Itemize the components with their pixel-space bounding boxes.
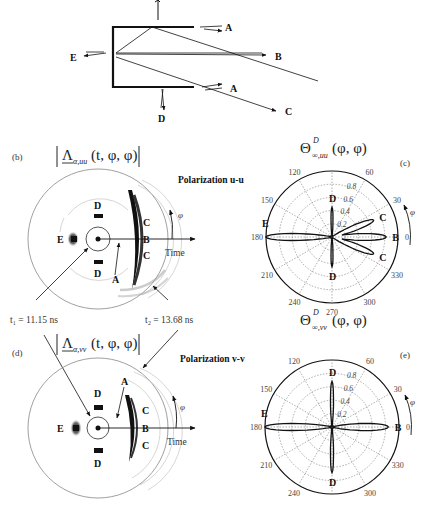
panel-c-formula-args: (φ, φ): [332, 140, 367, 157]
panel-b: (b) Λ α,uu (t, φ, φ) Polarization u-u: [12, 146, 244, 309]
svg-text:330: 330: [392, 461, 404, 470]
polar-lobe-label-e: E: [261, 408, 268, 419]
panel-b-label-a: A: [112, 274, 120, 285]
time-t2: t₂ = 13.68 ns: [145, 315, 194, 325]
polar-lobe-label-d: D: [329, 367, 336, 378]
panel-c-phi: φ: [410, 207, 415, 217]
panel-b-label-d-bottom: D: [94, 268, 101, 279]
panel-d-label-c-top: C: [142, 405, 149, 416]
svg-text:0.8: 0.8: [347, 182, 357, 191]
svg-text:0.2: 0.2: [337, 220, 347, 229]
panel-d-time-label: Time: [167, 437, 187, 447]
panel-d-formula-args: (t, φ, φ): [91, 335, 137, 352]
svg-text:240: 240: [288, 489, 300, 498]
panel-d-label-b: B: [142, 423, 149, 434]
panel-b-label-c-top: C: [143, 217, 150, 228]
svg-text:0.4: 0.4: [340, 207, 350, 216]
svg-text:0: 0: [405, 233, 409, 242]
polar-lobe-label-e: E: [262, 218, 269, 229]
diagram-label-a-top: A: [225, 22, 233, 33]
polar-lobe-label-d: D: [329, 477, 336, 488]
polar-lobe-label-d: D: [329, 271, 336, 282]
panel-d-tag: (d): [12, 348, 23, 358]
panel-e-phi: φ: [410, 397, 415, 407]
diagram-label-d: D: [158, 113, 165, 124]
panel-e-formula-sup: D: [312, 308, 319, 317]
polar-lobe-label-c: C: [379, 252, 386, 263]
panel-d: (d) Λ α,vv (t, φ, φ) Polarization v-v φ …: [12, 334, 245, 498]
diagram-label-a-bottom: A: [230, 83, 238, 94]
panel-d-polarization: Polarization v-v: [180, 354, 245, 364]
svg-text:0: 0: [406, 423, 410, 432]
panel-d-label-c-bottom: C: [142, 440, 149, 451]
panel-b-formula-symbol: Λ: [62, 147, 73, 163]
polar-lobe-label-b: B: [395, 422, 402, 433]
svg-text:330: 330: [391, 271, 403, 280]
panel-b-formula-sub: α,uu: [73, 157, 87, 166]
panel-b-polarization: Polarization u-u: [178, 175, 244, 185]
panel-c-tag: (c): [400, 158, 410, 168]
svg-text:150: 150: [260, 385, 272, 394]
svg-text:300: 300: [364, 298, 376, 307]
polar-lobe-label-c: C: [379, 212, 386, 223]
svg-text:180: 180: [251, 233, 263, 242]
svg-text:60: 60: [366, 357, 374, 366]
panel-d-phi: φ: [180, 402, 185, 412]
panel-c-formula-sub: ∞,uu: [312, 151, 328, 160]
figure: A B C E A D (b) Λ α,uu (t, φ, φ) Polariz…: [0, 0, 428, 510]
svg-text:120: 120: [288, 357, 300, 366]
panel-e-formula-args: (φ, φ): [332, 312, 367, 329]
figure-canvas: A B C E A D (b) Λ α,uu (t, φ, φ) Polariz…: [0, 0, 428, 510]
svg-text:150: 150: [261, 196, 273, 205]
diagram-label-c: C: [285, 106, 292, 117]
svg-text:0.8: 0.8: [347, 371, 357, 380]
panel-d-formula-sub: α,vv: [73, 345, 87, 354]
diagram-label-b: B: [275, 51, 282, 62]
panel-b-label-d-top: D: [94, 200, 101, 211]
polar-plot-c: 030601201501802102402703003300.20.40.60.…: [251, 168, 411, 317]
panel-d-label-a: A: [121, 376, 129, 387]
panel-b-label-b: B: [143, 234, 150, 245]
svg-text:120: 120: [289, 168, 301, 177]
panel-b-label-c-bottom: C: [143, 250, 150, 261]
svg-text:300: 300: [364, 489, 376, 498]
panel-b-tag: (b): [12, 152, 23, 162]
diagram-label-e: E: [70, 52, 77, 63]
panel-e-tag: (e): [400, 350, 410, 360]
panel-b-time-label: Time: [165, 248, 185, 258]
panel-c-formula-symbol: Θ: [300, 140, 311, 156]
wedge-outline: [113, 27, 194, 87]
panel-b-phi: φ: [178, 210, 183, 220]
panel-d-label-e: E: [57, 423, 64, 434]
panel-c: Θ D ∞,uu (φ, φ) (c) 03060120150180210240…: [251, 136, 415, 317]
panel-d-label-d-top: D: [94, 388, 101, 399]
time-annotations: t₁ = 11.15 ns t₂ = 13.68 ns: [10, 248, 194, 416]
svg-text:210: 210: [260, 461, 272, 470]
time-t1: t₁ = 11.15 ns: [10, 315, 58, 325]
panel-e-formula-sub: ∞,vv: [312, 323, 327, 332]
polar-lobe-label-b: B: [392, 232, 399, 243]
panel-b-label-e: E: [57, 234, 64, 245]
svg-text:240: 240: [289, 298, 301, 307]
polar-lobe-label-d: D: [329, 193, 336, 204]
panel-d-formula-symbol: Λ: [62, 335, 73, 351]
panel-c-formula-sup: D: [312, 136, 319, 145]
panel-e: Θ D ∞,vv (φ, φ) (e) 03060120150180210240…: [250, 308, 415, 498]
svg-text:60: 60: [366, 168, 374, 177]
polar-plot-e: 030601201501802102403003300.20.40.60.8BD…: [250, 357, 411, 498]
svg-text:210: 210: [261, 271, 273, 280]
svg-text:0.2: 0.2: [337, 410, 347, 419]
panel-d-label-d-bottom: D: [94, 458, 101, 469]
svg-text:0.6: 0.6: [344, 195, 354, 204]
panel-b-formula-args: (t, φ, φ): [91, 147, 137, 164]
scattering-diagram: A B C E A D: [70, 0, 318, 124]
svg-text:30: 30: [393, 196, 401, 205]
svg-text:30: 30: [394, 385, 402, 394]
svg-text:0.6: 0.6: [344, 384, 354, 393]
svg-text:0.4: 0.4: [340, 397, 350, 406]
svg-text:180: 180: [250, 423, 262, 432]
panel-e-formula-symbol: Θ: [300, 312, 311, 328]
